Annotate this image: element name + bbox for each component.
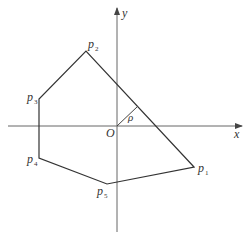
svg-text:2: 2 (95, 45, 99, 53)
svg-text:1: 1 (205, 169, 209, 177)
svg-text:5: 5 (104, 192, 108, 200)
vertex-label-p3: p 3 (26, 90, 38, 106)
svg-text:p: p (26, 152, 33, 166)
svg-text:p: p (26, 90, 33, 104)
x-axis-label: x (233, 127, 240, 141)
vertex-label-p1: p 1 (197, 161, 209, 177)
svg-text:p: p (96, 184, 103, 198)
rho-label: ρ (127, 111, 133, 123)
svg-text:3: 3 (34, 98, 38, 106)
origin-label: O (106, 126, 115, 140)
vertex-label-p5: p 5 (96, 184, 108, 200)
vertex-label-p2: p 2 (87, 37, 99, 53)
svg-text:p: p (197, 161, 204, 175)
vertex-label-p4: p 4 (26, 152, 38, 168)
svg-text:p: p (87, 37, 94, 51)
svg-text:4: 4 (34, 160, 38, 168)
y-axis-label: y (121, 6, 128, 20)
polygon-diagram: y x O ρ p 2 p 3 p 4 p 5 p 1 (0, 0, 250, 242)
